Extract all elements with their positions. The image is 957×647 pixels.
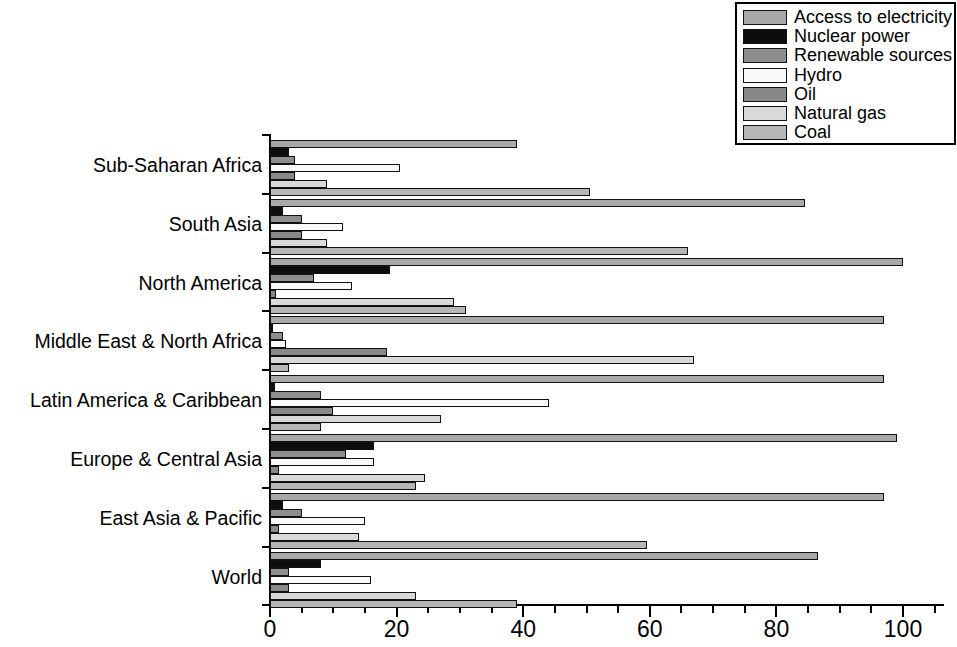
legend-item: Coal <box>743 123 951 142</box>
legend-label: Natural gas <box>794 104 886 123</box>
bar <box>270 466 279 474</box>
legend-swatch <box>743 87 787 102</box>
legend-swatch <box>743 125 787 140</box>
x-axis-tick-label: 60 <box>620 615 680 643</box>
bar <box>270 324 273 332</box>
bar <box>270 207 283 215</box>
bar <box>270 180 327 188</box>
bar <box>270 290 276 298</box>
bar <box>270 533 359 541</box>
bar <box>270 474 425 482</box>
bar <box>270 442 374 450</box>
bar <box>270 592 416 600</box>
category-label: Latin America & Caribbean <box>0 389 262 412</box>
x-axis-tick <box>680 606 682 613</box>
bar <box>270 298 454 306</box>
bar <box>270 450 346 458</box>
bar <box>270 493 884 501</box>
bar <box>270 156 295 164</box>
bar <box>270 340 286 348</box>
x-axis-tick <box>712 606 714 613</box>
y-axis-tick <box>262 428 270 430</box>
y-axis-tick <box>262 134 270 136</box>
x-axis-tick <box>839 606 841 613</box>
bar <box>270 282 352 290</box>
bar <box>270 552 818 560</box>
bar <box>270 391 321 399</box>
bar <box>270 199 805 207</box>
bar <box>270 148 289 156</box>
bar <box>270 458 374 466</box>
bar <box>270 231 302 239</box>
x-axis-tick <box>870 606 872 613</box>
bar <box>270 482 416 490</box>
y-axis-tick <box>262 252 270 254</box>
category-label: World <box>0 566 262 589</box>
bar <box>270 306 466 314</box>
x-axis-tick <box>617 606 619 613</box>
y-axis-tick <box>262 487 270 489</box>
bar <box>270 600 517 608</box>
x-axis-tick-label: 0 <box>240 615 300 643</box>
bar <box>270 316 884 324</box>
legend-label: Access to electricity <box>794 8 952 27</box>
x-axis-tick-label: 80 <box>746 615 806 643</box>
bar <box>270 568 289 576</box>
category-label: Europe & Central Asia <box>0 448 262 471</box>
bar <box>270 239 327 247</box>
legend-label: Coal <box>794 123 831 142</box>
legend-swatch <box>743 29 787 44</box>
bar <box>270 258 903 266</box>
legend-item: Oil <box>743 85 951 104</box>
legend-swatch <box>743 106 787 121</box>
x-axis-tick <box>807 606 809 613</box>
bar <box>270 274 314 282</box>
x-axis-tick-label: 40 <box>493 615 553 643</box>
legend-swatch <box>743 68 787 83</box>
category-label: Middle East & North Africa <box>0 330 262 353</box>
x-axis-tick-label: 100 <box>873 615 933 643</box>
bar <box>270 332 283 340</box>
bar <box>270 584 289 592</box>
bar <box>270 415 441 423</box>
legend-label: Hydro <box>794 66 842 85</box>
x-axis-tick-label: 20 <box>367 615 427 643</box>
y-axis-tick <box>262 310 270 312</box>
legend-swatch <box>743 10 787 25</box>
legend-swatch <box>743 48 787 63</box>
x-axis-tick <box>586 606 588 613</box>
x-axis-tick <box>744 606 746 613</box>
bar <box>270 434 897 442</box>
bar <box>270 576 371 584</box>
bar <box>270 348 387 356</box>
bar <box>270 188 590 196</box>
category-label: East Asia & Pacific <box>0 507 262 530</box>
bar <box>270 501 283 509</box>
bar <box>270 375 884 383</box>
legend-item: Nuclear power <box>743 27 951 46</box>
x-axis-tick <box>554 606 556 613</box>
plot-area <box>270 134 903 604</box>
legend-label: Renewable sources <box>794 46 952 65</box>
y-axis-tick <box>262 546 270 548</box>
bar <box>270 172 295 180</box>
bar <box>270 215 302 223</box>
category-label: North America <box>0 272 262 295</box>
category-label: Sub-Saharan Africa <box>0 154 262 177</box>
bar <box>270 509 302 517</box>
category-label: South Asia <box>0 213 262 236</box>
legend-item: Hydro <box>743 66 951 85</box>
bar <box>270 407 333 415</box>
legend-item: Natural gas <box>743 104 951 123</box>
x-axis-tick <box>934 606 936 613</box>
bar <box>270 364 289 372</box>
chart-page: 020406080100 Sub-Saharan AfricaSouth Asi… <box>0 0 957 647</box>
bar <box>270 383 275 391</box>
bar <box>270 560 321 568</box>
y-axis-tick <box>262 604 270 606</box>
bar <box>270 541 647 549</box>
legend-label: Oil <box>794 85 816 104</box>
y-axis-tick <box>262 369 270 371</box>
bar <box>270 356 694 364</box>
chart-legend: Access to electricityNuclear powerRenewa… <box>735 2 956 145</box>
